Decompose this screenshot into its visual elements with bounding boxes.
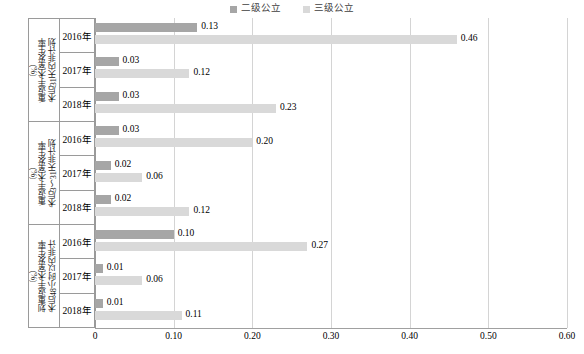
bar-row: 0.010.11 bbox=[95, 294, 567, 328]
y-axis-group-title-line3-0: （%） bbox=[30, 59, 40, 82]
gridline bbox=[567, 18, 568, 328]
bar-value-label-secondary: 0.01 bbox=[107, 263, 124, 272]
y-axis-group-title-line2-1: 重返手术室发生率 bbox=[39, 141, 49, 205]
bar-tertiary[interactable] bbox=[95, 276, 142, 285]
y-axis-group-title-line1-1: 术后3～31天非计划 bbox=[49, 139, 59, 207]
legend-item-secondary[interactable]: 二级公立 bbox=[230, 4, 281, 14]
x-axis-tick-label: 0.50 bbox=[480, 331, 497, 341]
y-axis-group-title-2: 术后48小时以内非计 划重返手术室发生率 （%） bbox=[29, 225, 59, 327]
bar-value-label-secondary: 0.13 bbox=[201, 22, 218, 31]
y-axis-years-2: 2016年 2017年 2018年 bbox=[59, 225, 94, 327]
bar-secondary[interactable] bbox=[95, 161, 111, 170]
bar-secondary[interactable] bbox=[95, 92, 119, 101]
y-axis-year-label: 2016年 bbox=[60, 225, 94, 259]
bar-tertiary[interactable] bbox=[95, 173, 142, 182]
y-axis-label-table: 术后31天内非计划 重返手术室发生率 （%） 2016年 2017年 2018年… bbox=[28, 18, 95, 328]
bar-secondary[interactable] bbox=[95, 230, 174, 239]
bar-value-label-tertiary: 0.12 bbox=[193, 68, 210, 77]
bar-value-label-secondary: 0.02 bbox=[115, 194, 132, 203]
bar-secondary[interactable] bbox=[95, 299, 103, 308]
bar-value-label-secondary: 0.01 bbox=[107, 298, 124, 307]
bar-secondary[interactable] bbox=[95, 126, 119, 135]
bar-row: 0.030.23 bbox=[95, 87, 567, 121]
y-axis-years-1: 2016年 2017年 2018年 bbox=[59, 122, 94, 224]
bar-secondary[interactable] bbox=[95, 23, 197, 32]
y-axis-group-0: 术后31天内非计划 重返手术室发生率 （%） 2016年 2017年 2018年 bbox=[29, 19, 94, 122]
bar-row: 0.020.06 bbox=[95, 156, 567, 190]
y-axis-group-title-1: 术后3～31天非计划 重返手术室发生率 （%） bbox=[29, 122, 59, 224]
bar-value-label-secondary: 0.10 bbox=[178, 229, 195, 238]
y-axis-year-label: 2017年 bbox=[60, 259, 94, 293]
bar-value-label-secondary: 0.03 bbox=[123, 91, 140, 100]
bar-value-label-secondary: 0.03 bbox=[123, 56, 140, 65]
y-axis-year-label: 2018年 bbox=[60, 294, 94, 327]
plot-area: 0.130.460.030.120.030.230.030.200.020.06… bbox=[95, 18, 567, 328]
bar-tertiary[interactable] bbox=[95, 138, 252, 147]
x-axis-tick-label: 0.10 bbox=[165, 331, 182, 341]
bar-tertiary[interactable] bbox=[95, 311, 182, 320]
bar-secondary[interactable] bbox=[95, 57, 119, 66]
bar-value-label-tertiary: 0.12 bbox=[193, 206, 210, 215]
bar-tertiary[interactable] bbox=[95, 35, 457, 44]
bar-row: 0.030.20 bbox=[95, 121, 567, 155]
x-axis-tick-label: 0.60 bbox=[559, 331, 576, 341]
y-axis-year-label: 2018年 bbox=[60, 191, 94, 224]
y-axis-group-title-line1-0: 术后31天内非计划 bbox=[49, 38, 59, 102]
legend-square-icon bbox=[303, 6, 310, 13]
y-axis-years-0: 2016年 2017年 2018年 bbox=[59, 19, 94, 121]
y-axis-year-label: 2017年 bbox=[60, 53, 94, 87]
bar-value-label-secondary: 0.02 bbox=[115, 160, 132, 169]
bar-value-label-tertiary: 0.06 bbox=[146, 275, 163, 284]
x-axis-ticks: 00.100.200.300.400.500.60 bbox=[95, 331, 567, 347]
bar-rows: 0.130.460.030.120.030.230.030.200.020.06… bbox=[95, 18, 567, 328]
y-axis-year-label: 2018年 bbox=[60, 88, 94, 121]
legend-square-icon bbox=[230, 6, 237, 13]
x-axis-tick-label: 0.20 bbox=[244, 331, 261, 341]
bar-value-label-tertiary: 0.11 bbox=[186, 310, 202, 319]
bar-chart: 二级公立 三级公立 术后31天内非计划 重返手术室发生率 （%） 2016年 2… bbox=[0, 0, 584, 354]
bar-value-label-tertiary: 0.23 bbox=[280, 103, 297, 112]
bar-row: 0.010.06 bbox=[95, 259, 567, 293]
bar-tertiary[interactable] bbox=[95, 104, 276, 113]
legend-label-secondary: 二级公立 bbox=[241, 4, 281, 14]
chart-legend: 二级公立 三级公立 bbox=[0, 2, 584, 16]
bar-secondary[interactable] bbox=[95, 195, 111, 204]
y-axis-group-title-line3-1: （%） bbox=[30, 162, 40, 185]
bar-row: 0.100.27 bbox=[95, 225, 567, 259]
y-axis-year-label: 2016年 bbox=[60, 19, 94, 53]
bar-row: 0.030.12 bbox=[95, 52, 567, 86]
bar-value-label-tertiary: 0.20 bbox=[256, 137, 273, 146]
bar-value-label-tertiary: 0.06 bbox=[146, 172, 163, 181]
y-axis-group-title-line1-2: 术后48小时以内非计 bbox=[49, 240, 59, 312]
bar-tertiary[interactable] bbox=[95, 242, 307, 251]
y-axis-year-label: 2016年 bbox=[60, 122, 94, 156]
bar-tertiary[interactable] bbox=[95, 69, 189, 78]
bar-value-label-secondary: 0.03 bbox=[123, 125, 140, 134]
bar-tertiary[interactable] bbox=[95, 207, 189, 216]
y-axis-group-title-line2-2: 划重返手术室发生率 bbox=[39, 240, 49, 312]
bar-row: 0.020.12 bbox=[95, 190, 567, 224]
bar-row: 0.130.46 bbox=[95, 18, 567, 52]
bar-secondary[interactable] bbox=[95, 264, 103, 273]
bar-value-label-tertiary: 0.46 bbox=[461, 34, 478, 43]
y-axis-year-label: 2017年 bbox=[60, 156, 94, 190]
x-axis-tick-label: 0.30 bbox=[323, 331, 340, 341]
y-axis-group-2: 术后48小时以内非计 划重返手术室发生率 （%） 2016年 2017年 201… bbox=[29, 225, 94, 327]
y-axis-group-title-0: 术后31天内非计划 重返手术室发生率 （%） bbox=[29, 19, 59, 121]
y-axis-group-1: 术后3～31天非计划 重返手术室发生率 （%） 2016年 2017年 2018… bbox=[29, 122, 94, 225]
y-axis-group-title-line3-2: （%） bbox=[30, 265, 40, 288]
legend-label-tertiary: 三级公立 bbox=[314, 4, 354, 14]
y-axis-group-title-line2-0: 重返手术室发生率 bbox=[39, 38, 49, 102]
x-axis-tick-label: 0.40 bbox=[401, 331, 418, 341]
x-axis-line bbox=[95, 328, 567, 329]
bar-value-label-tertiary: 0.27 bbox=[311, 241, 328, 250]
x-axis-tick-label: 0 bbox=[93, 331, 98, 341]
legend-item-tertiary[interactable]: 三级公立 bbox=[303, 4, 354, 14]
